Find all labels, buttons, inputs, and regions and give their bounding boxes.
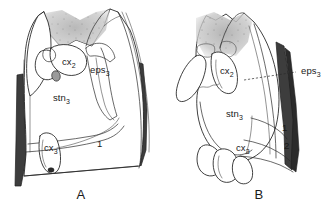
label-num2-b: 2 (284, 140, 289, 151)
anatomical-drawing: cx2 eps3 stn3 cx3 1 A (0, 0, 333, 210)
panel-b: cx2 eps3 stn3 cx3 1 2 B (176, 8, 320, 202)
caption-b: B (255, 187, 264, 202)
label-num1-a: 1 (97, 138, 102, 149)
label-num1-b: 1 (282, 122, 287, 133)
caption-a: A (77, 187, 86, 202)
label-eps3-b: eps3 (301, 65, 321, 78)
coxa3-knob-a (48, 168, 54, 172)
panel-a: cx2 eps3 stn3 cx3 1 A (15, 5, 149, 202)
figure-canvas: cx2 eps3 stn3 cx3 1 A (0, 0, 333, 210)
coxa3-lobe3-b (232, 156, 252, 184)
